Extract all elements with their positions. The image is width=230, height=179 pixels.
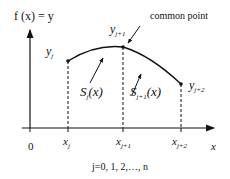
x-j-label: xj <box>62 135 70 150</box>
origin-label: 0 <box>28 140 34 152</box>
y-j2-label: yj+2 <box>188 78 205 94</box>
y-axis-label: f (x) = y <box>14 9 54 23</box>
x-j2-label: xj+2 <box>171 135 188 150</box>
segment-sj1-label: Sj+1(x) <box>130 84 161 101</box>
spline-curve <box>68 47 181 84</box>
y-j-label: yj <box>45 44 53 60</box>
index-range-caption: j=0, 1, 2,…, n <box>91 161 148 172</box>
spline-diagram: f (x) = y yj yj+1 yj+2 common point Sj(x… <box>0 0 230 179</box>
y-j1-label: yj+1 <box>109 22 126 38</box>
common-point-annotation: common point <box>150 10 208 21</box>
x-axis-label: x <box>210 140 216 152</box>
x-j1-label: xj+1 <box>115 135 131 150</box>
segment-sj-label: Sj(x) <box>80 84 103 101</box>
